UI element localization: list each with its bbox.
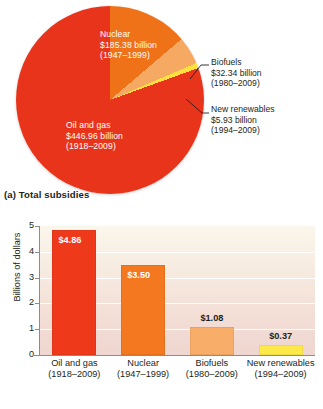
y-tick-mark: [35, 226, 40, 227]
pie-chart: Nuclear $185.38 billion (1947–1999) Oil …: [16, 6, 204, 194]
callout-biofuels-amount: $32.34 billion: [211, 68, 262, 79]
bar-chart-plot-area: 543210 $4.86$3.50$1.08$0.37: [40, 226, 315, 355]
caption-panel-a: (a) Total subsidies: [4, 189, 89, 200]
x-category-name: Nuclear: [109, 358, 178, 369]
y-tick-label: 3: [20, 272, 34, 282]
x-category-years: (1918–2009): [40, 369, 109, 380]
bar-value-new_renewables: $0.37: [269, 331, 292, 341]
callout-new-renewables-amount: $5.93 billion: [211, 115, 275, 126]
bar-value-biofuels: $1.08: [200, 313, 223, 323]
panel-per-year-subsidies: Billions of dollars 543210 $4.86$3.50$1.…: [0, 212, 323, 409]
pie-label-nuclear: Nuclear $185.38 billion (1947–1999): [100, 29, 157, 61]
bar-biofuels: $1.08: [190, 327, 234, 355]
callout-new-renewables-years: (1994–2009): [211, 125, 275, 136]
y-tick-label: 2: [20, 297, 34, 307]
x-category-biofuels: Biofuels(1980–2009): [178, 358, 247, 381]
pie-label-nuclear-amount: $185.38 billion: [100, 40, 157, 51]
y-tick-mark: [35, 252, 40, 253]
y-tick-mark: [35, 355, 40, 356]
y-tick-mark: [35, 303, 40, 304]
bar-value-nuclear: $3.50: [127, 270, 150, 280]
callout-new-renewables: New renewables $5.93 billion (1994–2009): [211, 104, 275, 136]
x-category-years: (1980–2009): [178, 369, 247, 380]
bar-oil_gas: $4.86: [52, 230, 96, 355]
pie-label-nuclear-name: Nuclear: [100, 29, 157, 40]
x-category-oil_gas: Oil and gas(1918–2009): [40, 358, 109, 381]
callout-biofuels: Biofuels $32.34 billion (1980–2009): [211, 57, 262, 89]
y-tick-label: 5: [20, 220, 34, 230]
x-category-nuclear: Nuclear(1947–1999): [109, 358, 178, 381]
bar-nuclear: $3.50: [121, 265, 165, 355]
pie-label-oil-and-gas-years: (1918–2009): [66, 141, 123, 152]
y-tick-label: 1: [20, 323, 34, 333]
x-axis-line: [34, 355, 315, 356]
y-tick-label: 4: [20, 246, 34, 256]
bar-new_renewables: $0.37: [259, 345, 303, 355]
pie-label-oil-and-gas-amount: $446.96 billion: [66, 131, 123, 142]
pie-label-oil-and-gas-name: Oil and gas: [66, 120, 123, 131]
y-tick-mark: [35, 329, 40, 330]
x-category-years: (1994–2009): [246, 369, 315, 380]
y-tick-label: 0: [20, 349, 34, 359]
pie-label-nuclear-years: (1947–1999): [100, 50, 157, 61]
x-category-years: (1947–1999): [109, 369, 178, 380]
callout-new-renewables-name: New renewables: [211, 104, 275, 115]
figure-root: Nuclear $185.38 billion (1947–1999) Oil …: [0, 0, 323, 409]
x-category-name: Biofuels: [178, 358, 247, 369]
y-axis-line: [39, 226, 40, 355]
callout-biofuels-years: (1980–2009): [211, 78, 262, 89]
x-category-name: New renewables: [246, 358, 315, 369]
x-category-new_renewables: New renewables(1994–2009): [246, 358, 315, 381]
bar-value-oil_gas: $4.86: [58, 235, 81, 245]
pie-label-oil-and-gas: Oil and gas $446.96 billion (1918–2009): [66, 120, 123, 152]
panel-total-subsidies: Nuclear $185.38 billion (1947–1999) Oil …: [0, 0, 323, 205]
x-category-name: Oil and gas: [40, 358, 109, 369]
y-tick-mark: [35, 278, 40, 279]
callout-biofuels-name: Biofuels: [211, 57, 262, 68]
